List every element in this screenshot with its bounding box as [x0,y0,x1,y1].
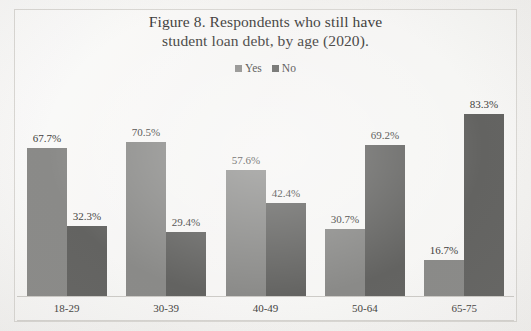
figure-title-line-1: Figure 8. Respondents who still have [0,12,531,31]
bar-group-bars: 30.7%69.2% [325,88,405,296]
bar-yes-50-64[interactable]: 30.7% [325,229,365,296]
bar-value-label: 67.7% [33,132,61,144]
bar-group: 16.7%83.3% [424,88,504,296]
bar-group-bars: 67.7%32.3% [27,88,107,296]
bar-yes-30-39[interactable]: 70.5% [126,142,166,296]
bar-no-30-39[interactable]: 29.4% [166,232,206,296]
x-tick-label-50-64: 50-64 [315,302,414,314]
bar-no-65-75[interactable]: 83.3% [464,114,504,296]
bar-value-label: 16.7% [430,244,458,256]
bar-yes-40-49[interactable]: 57.6% [226,170,266,296]
x-tick-label-18-29: 18-29 [17,302,116,314]
legend-swatch-icon [272,65,279,72]
chart-legend: YesNo [0,62,531,74]
bar-group-bars: 16.7%83.3% [424,88,504,296]
x-axis-tick-labels: 18-2930-3940-4950-6465-75 [17,300,514,320]
bar-value-label: 29.4% [172,216,200,228]
bar-group: 57.6%42.4% [226,88,306,296]
bar-value-label: 32.3% [73,210,101,222]
figure-title: Figure 8. Respondents who still have stu… [0,12,531,50]
bar-value-label: 69.2% [371,129,399,141]
bar-yes-65-75[interactable]: 16.7% [424,260,464,296]
bar-value-label: 30.7% [331,213,359,225]
legend-item-no[interactable]: No [272,62,296,74]
bar-group: 67.7%32.3% [27,88,107,296]
x-tick-label-65-75: 65-75 [415,302,514,314]
figure-title-line-2: student loan debt, by age (2020). [0,31,531,50]
bar-group: 30.7%69.2% [325,88,405,296]
bar-group-bars: 70.5%29.4% [126,88,206,296]
legend-item-yes[interactable]: Yes [235,62,262,74]
bar-no-50-64[interactable]: 69.2% [365,145,405,296]
legend-swatch-icon [235,65,242,72]
chart-plot-area: 67.7%32.3%70.5%29.4%57.6%42.4%30.7%69.2%… [17,88,514,296]
bar-group-bars: 57.6%42.4% [226,88,306,296]
x-tick-label-40-49: 40-49 [216,302,315,314]
legend-label: Yes [245,62,262,74]
bar-yes-18-29[interactable]: 67.7% [27,148,67,296]
bar-no-40-49[interactable]: 42.4% [266,203,306,296]
x-tick-label-30-39: 30-39 [116,302,215,314]
bar-value-label: 42.4% [272,187,300,199]
bar-value-label: 83.3% [470,98,498,110]
legend-label: No [282,62,296,74]
bar-value-label: 70.5% [132,126,160,138]
bar-no-18-29[interactable]: 32.3% [67,226,107,296]
bar-group: 70.5%29.4% [126,88,206,296]
bar-value-label: 57.6% [232,154,260,166]
